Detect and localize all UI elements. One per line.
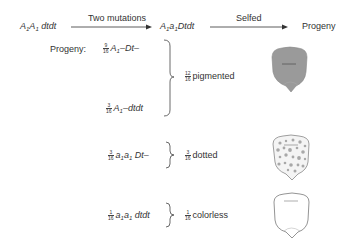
phenotype-dotted: 316dotted <box>185 150 218 161</box>
fraction: 1216 <box>185 71 191 82</box>
genotype-row: 316A1–dtdt <box>106 103 143 114</box>
fraction: 116 <box>185 210 191 221</box>
colorless-kernel-icon <box>274 193 309 238</box>
fraction: 916 <box>103 43 109 54</box>
step-selfed-label: Selfed <box>236 13 262 23</box>
pigmented-kernel-icon <box>272 47 307 92</box>
genotype-row: 916A1–Dt– <box>103 43 139 54</box>
intermediate-genotype: A1a1Dtdt <box>160 21 194 32</box>
phenotype-colorless: 116colorless <box>185 210 228 221</box>
bracket-colorless <box>166 203 174 227</box>
fraction: 316 <box>108 150 114 161</box>
genotype-row: 316a1a1 Dt– <box>108 150 149 161</box>
step-two-mutations-label: Two mutations <box>88 13 146 23</box>
dotted-kernel-icon <box>273 135 309 180</box>
bracket-dotted <box>166 142 174 168</box>
progeny-label: Progeny: <box>50 44 86 54</box>
parent-genotype: A1A1 dtdt <box>20 21 56 32</box>
diagram-graphics <box>0 0 354 246</box>
fraction: 316 <box>106 103 112 114</box>
genotype-row: 116a1a1 dtdt <box>108 210 150 221</box>
phenotype-pigmented: 1216pigmented <box>185 71 235 82</box>
bracket-pigmented <box>164 40 174 116</box>
arrow-two-mutations <box>71 25 152 30</box>
result-progeny-label: Progeny <box>302 21 336 31</box>
fraction: 116 <box>108 210 114 221</box>
fraction: 316 <box>185 150 191 161</box>
arrow-selfed <box>210 25 288 30</box>
